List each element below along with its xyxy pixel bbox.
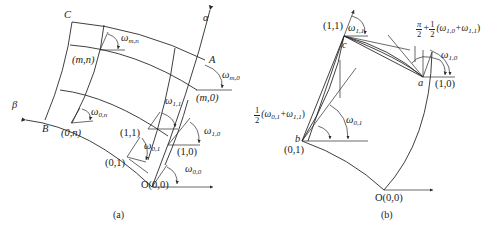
- node-label-origin: O(0,0): [141, 180, 169, 191]
- node-label-b-01: (0,1): [284, 145, 304, 156]
- node-label-b-origin: O(0,0): [375, 193, 403, 204]
- node-label-b-10: (1,0): [435, 79, 455, 90]
- beta-axis-label: β: [12, 100, 17, 111]
- node-label-m0: (m,0): [196, 93, 218, 104]
- formula-b: 12(ω0,1+ω1,1): [254, 106, 305, 124]
- formula-a: π2+12(ω1,0+ω1,1): [416, 20, 480, 38]
- point-label-c: c: [342, 40, 347, 51]
- corner-label-b: B: [42, 124, 48, 135]
- angle-label-w-01: ω0,1: [144, 141, 160, 153]
- node-label-mn: (m,n): [72, 55, 94, 66]
- caption-b: (b): [381, 210, 393, 220]
- corner-label-c: C: [64, 10, 71, 21]
- angle-label-w-0n: ω0,n: [91, 107, 107, 119]
- node-label-01: (0,1): [105, 158, 125, 169]
- angle-label-w-mn: ωm,n: [121, 33, 139, 45]
- angle-label-w-00: ω0,0: [185, 164, 201, 176]
- node-label-11: (1,1): [120, 128, 140, 139]
- point-label-a: a: [418, 78, 423, 89]
- angle-label-w-11: ω1,1: [165, 96, 181, 108]
- corner-label-a: A: [209, 55, 215, 66]
- node-label-10: (1,0): [177, 147, 197, 158]
- node-label-0n: (0,n): [61, 128, 81, 139]
- angle-label-b-w-01: ω0,1: [346, 115, 362, 127]
- point-label-b: b: [295, 134, 300, 145]
- node-label-b-11: (1,1): [323, 21, 343, 32]
- angle-label-w-10: ω1,0: [204, 126, 220, 138]
- angle-label-b-w-10: ω1,0: [441, 50, 457, 62]
- angle-label-w-m0: ωm,0: [222, 70, 240, 82]
- caption-a: (a): [113, 210, 124, 220]
- alpha-axis-label: α: [203, 13, 209, 24]
- angle-label-b-w-11: ω1,1: [348, 23, 364, 35]
